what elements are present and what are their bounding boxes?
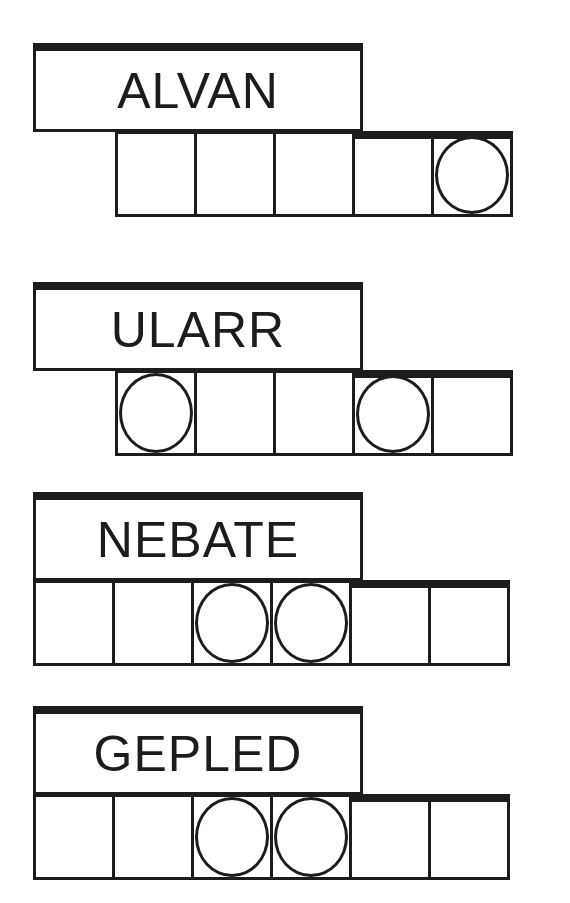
- answer-tile[interactable]: [33, 794, 115, 880]
- letter-input[interactable]: [115, 797, 195, 879]
- scrambled-word-box: NEBATE: [33, 492, 363, 581]
- scrambled-word: NEBATE: [36, 500, 360, 578]
- answer-tile-circled[interactable]: [270, 580, 352, 666]
- answer-tile[interactable]: [349, 580, 431, 666]
- answer-tile[interactable]: [194, 131, 276, 217]
- answer-tile[interactable]: [273, 131, 355, 217]
- letter-input[interactable]: [197, 134, 277, 216]
- answer-tile[interactable]: [352, 131, 434, 217]
- letter-input[interactable]: [434, 378, 514, 455]
- answer-tile[interactable]: [428, 580, 510, 666]
- letter-input[interactable]: [276, 373, 356, 455]
- answer-tile[interactable]: [431, 370, 513, 456]
- answer-tile[interactable]: [349, 794, 431, 880]
- answer-tile-circled[interactable]: [352, 370, 434, 456]
- letter-input[interactable]: [355, 378, 435, 455]
- letter-input[interactable]: [431, 802, 511, 879]
- letter-input[interactable]: [118, 134, 198, 216]
- answer-tiles: [115, 131, 513, 217]
- answer-tile[interactable]: [194, 370, 276, 456]
- answer-tile-circled[interactable]: [191, 794, 273, 880]
- letter-input[interactable]: [352, 802, 432, 879]
- answer-tile[interactable]: [33, 580, 115, 666]
- answer-tile-circled[interactable]: [191, 580, 273, 666]
- letter-input[interactable]: [194, 583, 274, 665]
- answer-tile-circled[interactable]: [270, 794, 352, 880]
- scrambled-word: GEPLED: [36, 714, 360, 792]
- scrambled-word-box: ULARR: [33, 282, 363, 371]
- letter-input[interactable]: [273, 797, 353, 879]
- scrambled-word-box: GEPLED: [33, 706, 363, 795]
- letter-input[interactable]: [115, 583, 195, 665]
- answer-tile[interactable]: [115, 131, 197, 217]
- letter-input[interactable]: [355, 139, 435, 216]
- answer-tiles: [115, 370, 513, 456]
- scrambled-word: ULARR: [36, 290, 360, 368]
- letter-input[interactable]: [36, 797, 116, 879]
- answer-tile-circled[interactable]: [431, 131, 513, 217]
- answer-tile[interactable]: [273, 370, 355, 456]
- letter-input[interactable]: [276, 134, 356, 216]
- answer-tiles: [33, 794, 510, 880]
- scrambled-word-box: ALVAN: [33, 43, 363, 132]
- letter-input[interactable]: [434, 139, 514, 216]
- letter-input[interactable]: [36, 583, 116, 665]
- answer-tile[interactable]: [112, 580, 194, 666]
- answer-tiles: [33, 580, 510, 666]
- letter-input[interactable]: [197, 373, 277, 455]
- letter-input[interactable]: [194, 797, 274, 879]
- letter-input[interactable]: [118, 373, 198, 455]
- answer-tile-circled[interactable]: [115, 370, 197, 456]
- letter-input[interactable]: [352, 588, 432, 665]
- answer-tile[interactable]: [428, 794, 510, 880]
- letter-input[interactable]: [431, 588, 511, 665]
- letter-input[interactable]: [273, 583, 353, 665]
- scrambled-word: ALVAN: [36, 51, 360, 129]
- answer-tile[interactable]: [112, 794, 194, 880]
